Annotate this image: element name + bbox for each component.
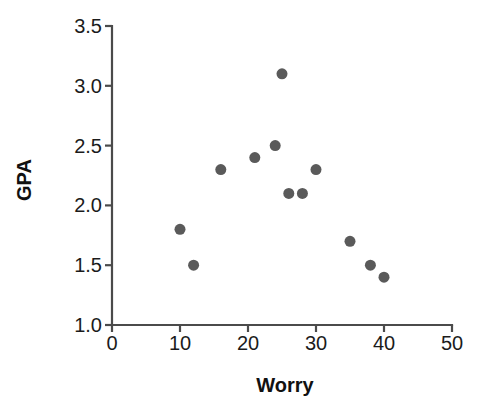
data-point <box>283 188 294 199</box>
y-tick-label-2.5: 2.5 <box>74 135 102 157</box>
y-tick-label-1.5: 1.5 <box>74 254 102 276</box>
x-tick-label-0: 0 <box>106 332 117 354</box>
scatter-plot-figure: 01020304050 1.01.52.02.53.03.5 Worry GPA <box>0 0 493 416</box>
x-tick-label-30: 30 <box>305 332 327 354</box>
y-tick-label-3.5: 3.5 <box>74 15 102 37</box>
y-axis-title: GPA <box>13 159 35 201</box>
x-tick-label-50: 50 <box>441 332 463 354</box>
data-point <box>379 272 390 283</box>
y-tick-label-2.0: 2.0 <box>74 194 102 216</box>
y-tick-label-1.0: 1.0 <box>74 314 102 336</box>
x-axis-title: Worry <box>256 374 314 396</box>
data-point <box>311 164 322 175</box>
data-point <box>270 140 281 151</box>
x-tick-label-20: 20 <box>237 332 259 354</box>
data-point <box>175 224 186 235</box>
data-points <box>175 68 390 282</box>
y-tick-label-3.0: 3.0 <box>74 75 102 97</box>
x-axis-tick-labels: 01020304050 <box>106 332 463 354</box>
data-point <box>249 152 260 163</box>
data-point <box>277 68 288 79</box>
data-point <box>215 164 226 175</box>
data-point <box>188 260 199 271</box>
data-point <box>365 260 376 271</box>
data-point <box>345 236 356 247</box>
plot-canvas: 01020304050 1.01.52.02.53.03.5 Worry GPA <box>0 0 493 416</box>
y-axis-tick-labels: 1.01.52.02.53.03.5 <box>74 15 102 336</box>
x-tick-label-40: 40 <box>373 332 395 354</box>
x-tick-label-10: 10 <box>169 332 191 354</box>
data-point <box>297 188 308 199</box>
